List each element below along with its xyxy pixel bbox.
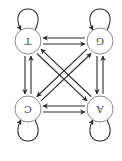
edge-A-to-T: [41, 49, 91, 96]
self-loop-T: [18, 9, 38, 30]
node-label: A: [96, 104, 105, 115]
node-label: T: [24, 36, 31, 47]
edge-C-to-G: [41, 53, 91, 100]
edge-G-to-C: [37, 49, 87, 96]
node-label: C: [24, 104, 32, 115]
nodes-layer: ACGT: [15, 28, 113, 122]
markov-chain-diagram: ACGT: [0, 0, 122, 161]
self-loop-A: [90, 120, 110, 141]
self-loop-G: [90, 9, 110, 30]
node-G: G: [87, 28, 113, 54]
edge-T-to-A: [37, 53, 87, 100]
node-C: C: [15, 96, 41, 122]
node-T: T: [15, 28, 41, 54]
node-A: A: [87, 96, 113, 122]
self-loop-C: [18, 120, 38, 141]
node-label: G: [96, 36, 104, 47]
